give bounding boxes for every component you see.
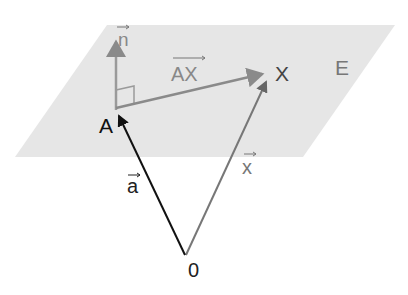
label-x-point: X: [275, 62, 289, 85]
label-origin: 0: [188, 259, 199, 281]
label-a-vector: a: [127, 175, 139, 197]
label-a-point: A: [99, 114, 113, 137]
label-plane-e: E: [335, 56, 349, 79]
label-n: n: [118, 29, 129, 50]
label-ax: AX: [171, 63, 198, 85]
plane-e: [15, 25, 395, 157]
plane-vector-diagram: n AX X E A x a 0: [0, 0, 408, 295]
label-x-vector: x: [242, 156, 252, 178]
